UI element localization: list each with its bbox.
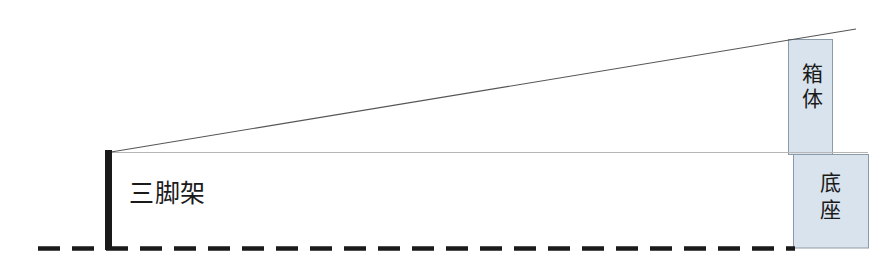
- label-tripod: 三脚架: [129, 181, 206, 207]
- label-box-body: 箱体: [800, 63, 821, 113]
- diagram-canvas: 三脚架 箱体 底座: [0, 0, 893, 274]
- tripod-rect: [105, 150, 112, 250]
- sight-line: [111, 29, 856, 152]
- diagram-graphics: [0, 0, 893, 274]
- label-base: 底座: [818, 172, 839, 226]
